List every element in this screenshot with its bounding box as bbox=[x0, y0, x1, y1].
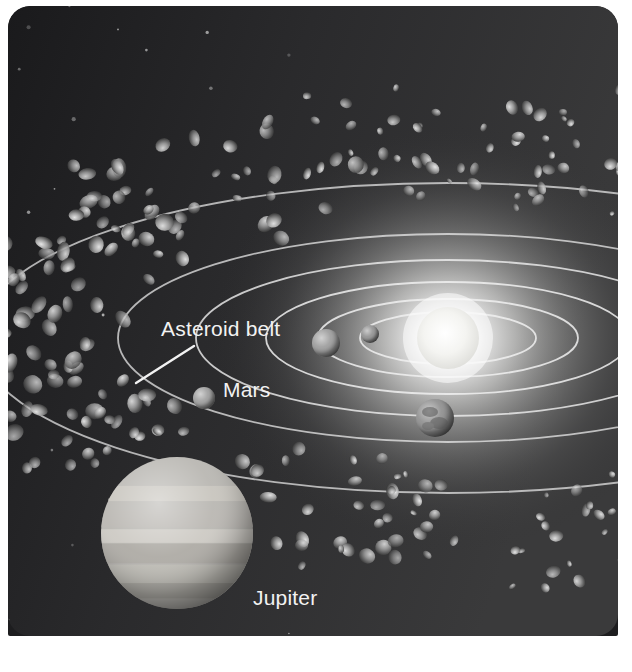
earth bbox=[416, 399, 454, 437]
star bbox=[287, 53, 290, 56]
venus bbox=[312, 329, 340, 357]
star bbox=[27, 211, 30, 214]
star bbox=[18, 68, 21, 71]
label-mars: Mars bbox=[223, 378, 270, 401]
solar-system-figure: Asteroid beltMarsJupiter bbox=[8, 6, 618, 636]
star bbox=[117, 28, 119, 30]
jupiter bbox=[101, 457, 253, 609]
star bbox=[54, 188, 56, 190]
sun bbox=[417, 307, 479, 369]
star bbox=[206, 31, 209, 34]
mercury bbox=[361, 325, 379, 343]
star bbox=[27, 25, 31, 29]
label-asteroid-belt: Asteroid belt bbox=[161, 317, 280, 340]
star bbox=[72, 117, 76, 121]
label-jupiter: Jupiter bbox=[253, 586, 317, 609]
star bbox=[71, 544, 74, 547]
star bbox=[102, 314, 105, 317]
star bbox=[209, 87, 213, 91]
star bbox=[145, 49, 148, 52]
star bbox=[288, 633, 290, 635]
mars bbox=[193, 387, 215, 409]
solar-system-canvas: Asteroid beltMarsJupiter bbox=[8, 6, 618, 636]
star bbox=[51, 449, 54, 452]
